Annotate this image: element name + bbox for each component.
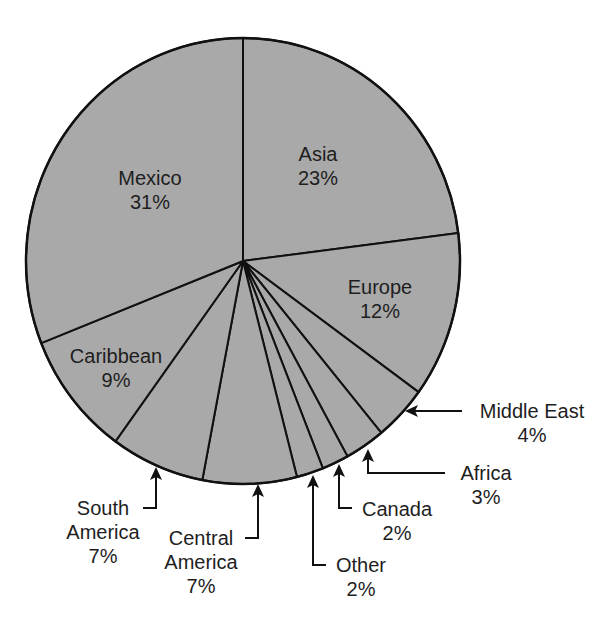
arrow-central-america: [245, 484, 264, 538]
arrow-other: [307, 475, 326, 565]
pie-slices: [26, 38, 460, 484]
label-other: Other 2%: [326, 553, 396, 601]
label-africa: Africa 3%: [446, 461, 526, 509]
label-asia: Asia 23%: [288, 142, 348, 190]
label-europe: Europe 12%: [335, 275, 425, 323]
label-mexico: Mexico 31%: [100, 166, 200, 214]
label-canada: Canada 2%: [352, 497, 442, 545]
arrow-canada: [333, 464, 352, 508]
slice-asia: [243, 38, 458, 261]
label-caribbean: Caribbean 9%: [56, 344, 176, 392]
arrow-africa: [362, 449, 445, 473]
label-central-america: Central America 7%: [156, 526, 246, 598]
label-south-america: South America 7%: [58, 496, 148, 568]
arrow-middle-east: [405, 405, 462, 417]
label-middle-east: Middle East 4%: [462, 399, 602, 447]
